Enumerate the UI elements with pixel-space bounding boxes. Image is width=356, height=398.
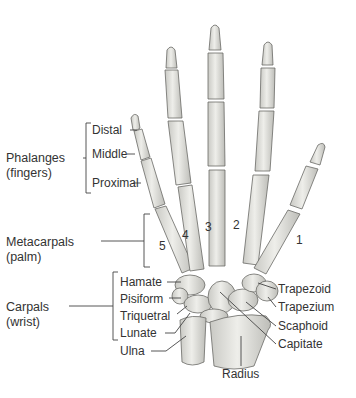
label-ulna: Ulna [120,345,145,358]
metacarpal-number-1: 1 [296,233,303,247]
label-trapezium: Trapezium [278,301,334,314]
metacarpals-title: Metacarpals [6,235,74,250]
metacarpals-group-label: Metacarpals (palm) [6,235,74,265]
hand-skeleton-diagram: Phalanges (fingers) Distal Middle Proxim… [0,0,356,398]
carpals-subtitle: (wrist) [6,315,49,330]
metacarpal-number-5: 5 [159,239,166,253]
label-lunate: Lunate [120,327,157,340]
label-capitate: Capitate [278,338,323,351]
label-pisiform: Pisiform [120,293,163,306]
label-distal: Distal [92,124,122,137]
radius-bone [210,315,271,369]
carpals-title: Carpals [6,300,49,315]
phalanges-title: Phalanges [6,151,65,166]
finger-2-bones [243,42,275,265]
label-trapezoid: Trapezoid [278,283,331,296]
label-hamate: Hamate [120,276,162,289]
label-scaphoid: Scaphoid [278,320,328,333]
label-proximal: Proximal [92,177,139,190]
metacarpal-number-3: 3 [205,220,212,234]
phalanges-subtitle: (fingers) [6,166,65,181]
metacarpal-number-2: 2 [233,218,240,232]
phalanges-group-label: Phalanges (fingers) [6,151,65,181]
carpals-group-label: Carpals (wrist) [6,300,49,330]
label-triquetral: Triquetral [120,310,170,323]
label-middle: Middle [92,148,127,161]
label-radius: Radius [222,368,259,381]
ulna-bone [180,316,206,365]
metacarpal-number-4: 4 [182,228,189,242]
metacarpals-subtitle: (palm) [6,250,74,265]
